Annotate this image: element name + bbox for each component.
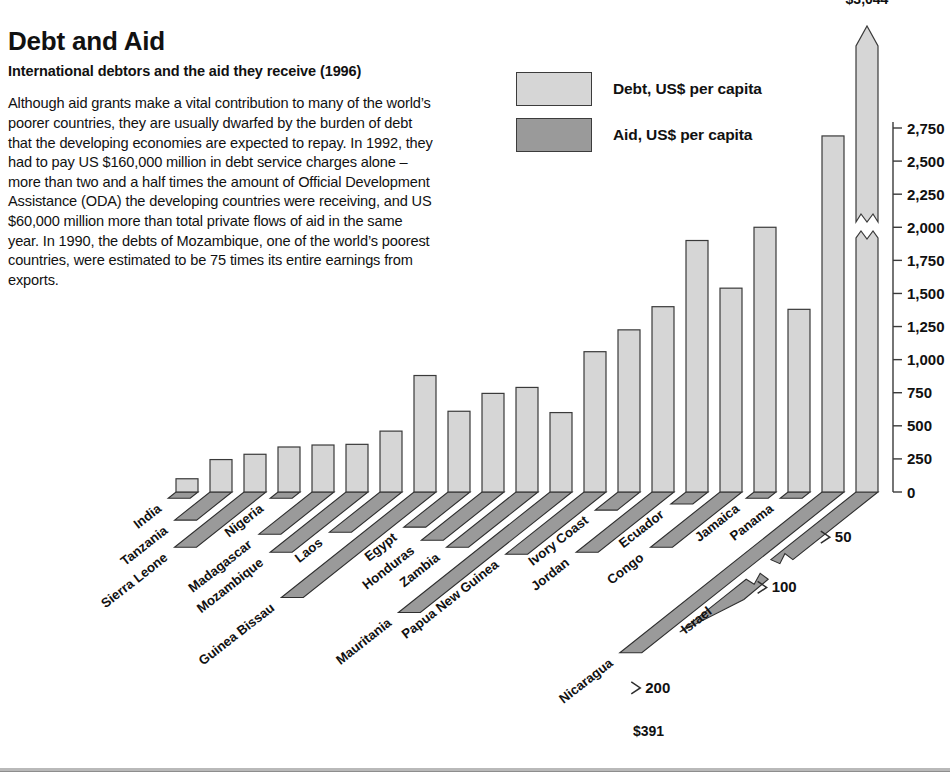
aid-bar (671, 492, 708, 504)
footer-rule-2 (0, 771, 950, 772)
debt-bars-group (176, 26, 878, 492)
debt-bar (380, 431, 402, 492)
y-axis-tick-label: 750 (907, 384, 932, 401)
y-axis-tick-label: 250 (907, 450, 932, 467)
depth-axis-tick (631, 682, 640, 694)
depth-axis-tick-label: 200 (645, 679, 670, 696)
debt-bar (754, 227, 776, 492)
israel-debt-value-label: $3,044 (846, 0, 889, 7)
debt-bar (210, 460, 232, 492)
depth-axis-tick-label: 50 (835, 528, 852, 545)
debt-bar (686, 241, 708, 492)
debt-bar (244, 454, 266, 492)
debt-bar (550, 413, 572, 492)
debt-bar (788, 309, 810, 492)
y-axis-tick-label: 0 (907, 484, 915, 501)
debt-bar (822, 136, 844, 492)
aid-bar (168, 492, 198, 498)
aid-bar (746, 492, 776, 498)
category-label: Mauritania (333, 615, 395, 668)
israel-aid-value-label: $391 (633, 723, 664, 739)
category-label: Nicaragua (556, 655, 616, 706)
y-axis-tick-label: 500 (907, 417, 932, 434)
category-label: Congo (604, 550, 646, 588)
chart-svg: 02505007501,0001,2501,5001,7502,0002,250… (0, 0, 950, 777)
debt-bar (414, 376, 436, 492)
aid-bar (270, 492, 300, 498)
y-axis-tick-label: 2,500 (907, 153, 945, 170)
debt-bar (720, 288, 742, 492)
y-axis-tick-label: 1,000 (907, 351, 945, 368)
y-axis-tick-label: 1,750 (907, 252, 945, 269)
debt-bar (448, 411, 470, 492)
debt-bar (312, 445, 334, 492)
aid-bars-group (168, 492, 878, 653)
debt-aid-bar-chart: 02505007501,0001,2501,5001,7502,0002,250… (0, 0, 950, 777)
debt-bar (652, 307, 674, 492)
debt-bar (856, 26, 878, 492)
y-axis-tick-label: 2,000 (907, 219, 945, 236)
debt-bar (346, 444, 368, 492)
y-axis-tick-label: 1,250 (907, 318, 945, 335)
y-axis-tick-label: 2,750 (907, 120, 945, 137)
debt-bar (482, 393, 504, 492)
debt-bar (176, 479, 198, 492)
debt-bar (278, 447, 300, 492)
debt-bar (516, 387, 538, 492)
aid-bar (780, 492, 810, 498)
depth-axis-tick-label: 100 (772, 578, 797, 595)
y-axis-tick-label: 2,250 (907, 186, 945, 203)
debt-bar (618, 330, 640, 492)
debt-bar (584, 352, 606, 492)
y-axis-tick-label: 1,500 (907, 285, 945, 302)
